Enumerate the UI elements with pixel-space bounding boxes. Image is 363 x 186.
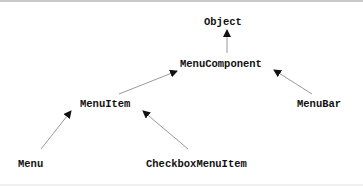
node-menubar: MenuBar	[297, 98, 341, 110]
edge-checkboxmenuitem-to-menuitem	[143, 111, 188, 149]
class-hierarchy-diagram: Object MenuComponent MenuItem MenuBar Me…	[0, 0, 363, 186]
edge-menuitem-to-menucomponent	[119, 71, 177, 94]
bottom-divider	[0, 184, 363, 186]
node-menucomponent: MenuComponent	[180, 58, 262, 70]
node-menuitem: MenuItem	[80, 98, 130, 110]
node-menu: Menu	[18, 158, 43, 170]
edge-menu-to-menuitem	[41, 111, 71, 149]
edge-menubar-to-menucomponent	[274, 70, 312, 94]
node-object: Object	[204, 16, 242, 28]
node-checkboxmenuitem: CheckboxMenuItem	[146, 158, 247, 170]
